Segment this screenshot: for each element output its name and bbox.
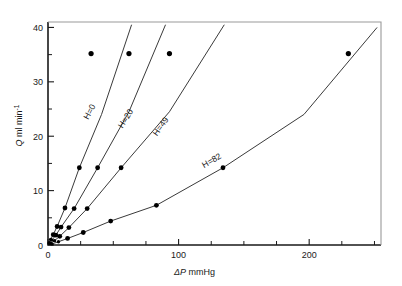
- y-tick-label: 20: [33, 132, 43, 142]
- data-point: [346, 51, 351, 56]
- y-tick-label: 10: [33, 186, 43, 196]
- data-point: [77, 165, 82, 170]
- plot-frame: [48, 22, 381, 245]
- data-point: [72, 206, 77, 211]
- data-point: [108, 219, 113, 224]
- y-tick-label: 0: [38, 241, 43, 251]
- y-axis-title: Qml min-1: [13, 104, 24, 146]
- data-point: [63, 206, 68, 211]
- series-label-3: H=82: [200, 151, 223, 170]
- data-point: [59, 225, 64, 230]
- data-point: [221, 165, 226, 170]
- data-point: [57, 234, 62, 239]
- y-tick-label: 40: [33, 23, 43, 33]
- data-point: [81, 230, 86, 235]
- data-point: [50, 242, 53, 245]
- data-point: [53, 239, 56, 242]
- data-point: [154, 203, 159, 208]
- series-curve-3: [52, 27, 377, 243]
- series-label-2: H=49: [151, 115, 171, 138]
- x-tick-label: 100: [171, 250, 186, 260]
- data-point: [65, 236, 70, 241]
- data-point: [126, 51, 131, 56]
- axis-lines: [48, 22, 381, 245]
- flow-vs-pressure-chart: 0100200010203040ΔPmmHgQml min-1H=0H=20H=…: [0, 0, 402, 286]
- chart-figure: 0100200010203040ΔPmmHgQml min-1H=0H=20H=…: [0, 0, 402, 286]
- data-point: [57, 240, 60, 243]
- series-curve-0: [49, 25, 131, 243]
- data-point: [119, 165, 124, 170]
- x-tick-label: 200: [302, 250, 317, 260]
- data-point: [85, 206, 90, 211]
- series-curve-2: [51, 25, 225, 244]
- series-curve-1: [49, 25, 165, 244]
- data-point: [95, 165, 100, 170]
- x-tick-label: 0: [45, 250, 50, 260]
- data-point: [88, 51, 93, 56]
- series-label-0: H=0: [81, 102, 97, 121]
- series-label-1: H=20: [116, 107, 136, 130]
- y-tick-label: 30: [33, 77, 43, 87]
- x-axis-title: ΔPmmHg: [173, 267, 215, 277]
- data-point: [66, 225, 71, 230]
- data-point: [167, 51, 172, 56]
